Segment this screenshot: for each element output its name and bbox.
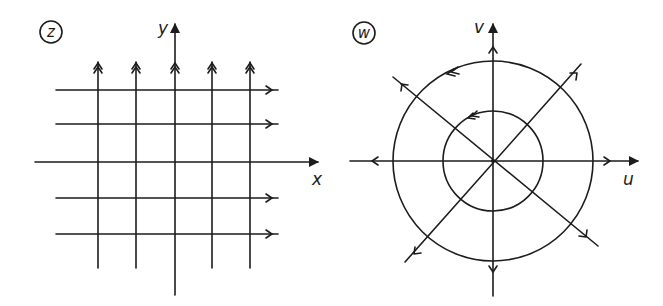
w-plane-panel: w u v (350, 17, 638, 296)
vertical-grid-lines (98, 62, 250, 268)
plane-label-text: z (46, 23, 56, 41)
conformal-map-figure: z x y (0, 0, 663, 306)
w-plane-label: w (353, 22, 375, 44)
v-axis-label: v (474, 17, 485, 37)
z-plane-panel: z x y (35, 18, 323, 295)
plane-label-text: w (358, 24, 371, 42)
circle-chevron-icons (447, 67, 479, 119)
origin-point (491, 159, 495, 163)
ray-chevron-icons (372, 47, 610, 272)
y-axis-label: y (157, 18, 169, 38)
double-chevron-ccw-icon (468, 111, 479, 119)
x-axis-label: x (311, 169, 323, 189)
z-plane-label: z (40, 21, 62, 43)
u-axis-label: u (623, 169, 634, 189)
double-chevron-up-icons (94, 63, 254, 73)
